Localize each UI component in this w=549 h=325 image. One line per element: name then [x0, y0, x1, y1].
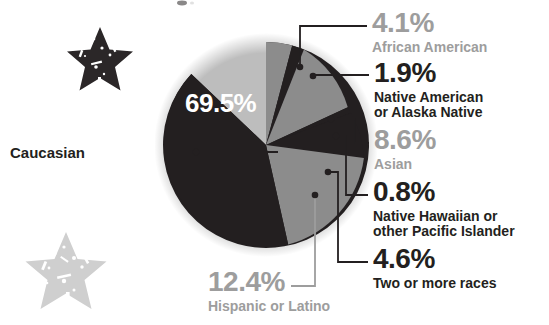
label-caucasian: Caucasian [10, 144, 85, 161]
percent-hispanic-latino: 12.4% [208, 268, 330, 296]
group-african-american: African American [372, 40, 487, 55]
group-native-hawaiian-line2: other Pacific Islander [373, 224, 515, 239]
percent-native-hawaiian: 0.8% [373, 178, 515, 206]
callout-native-hawaiian: 0.8% Native Hawaiian or other Pacific Is… [373, 178, 515, 239]
percent-native-american: 1.9% [374, 59, 483, 87]
percent-african-american: 4.1% [372, 9, 487, 37]
callout-asian: 8.6% Asian [374, 126, 436, 172]
infographic-canvas: 69.5% Caucasian 4.1% African American 1. [0, 0, 549, 325]
callout-native-american: 1.9% Native American or Alaska Native [374, 59, 483, 120]
group-hispanic-latino: Hispanic or Latino [208, 299, 330, 314]
group-native-american-line1: Native American [374, 90, 483, 105]
group-native-hawaiian-line1: Native Hawaiian or [373, 209, 515, 224]
callout-two-or-more-races: 4.6% Two or more races [373, 245, 496, 291]
percent-asian: 8.6% [374, 126, 436, 154]
callout-hispanic-latino: 12.4% Hispanic or Latino [208, 268, 330, 314]
group-two-or-more-races: Two or more races [373, 276, 496, 291]
callout-african-american: 4.1% African American [372, 9, 487, 55]
group-asian: Asian [374, 157, 436, 172]
group-native-american-line2: or Alaska Native [374, 105, 483, 120]
percent-two-or-more-races: 4.6% [373, 245, 496, 273]
